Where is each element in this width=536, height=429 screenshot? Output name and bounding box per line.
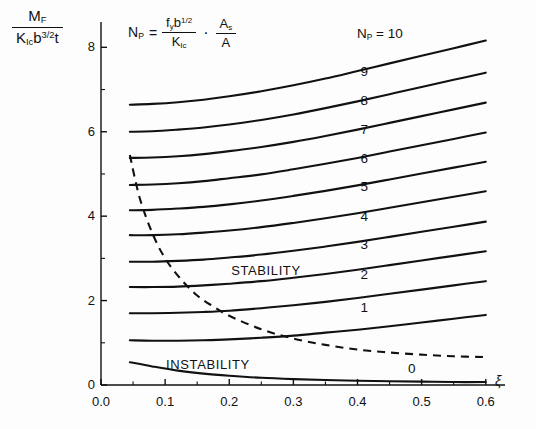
x-tick-label-4: 0.4 [341, 395, 375, 408]
curve-label-np-5: 5 [360, 180, 368, 194]
curve-label-np-2: 2 [360, 268, 368, 282]
axis-ticks [101, 47, 486, 385]
y-axis-title: MF KIcb3/2t [12, 8, 63, 47]
curve-label-np-4: 4 [360, 210, 368, 224]
region-label-instability: INSTABILITY [166, 358, 250, 371]
curve-label-np-6: 6 [360, 152, 368, 166]
data-curves [130, 41, 486, 383]
formula-f1-numerator: fyb1/2 [162, 16, 196, 33]
formula-lhs: NP [128, 25, 144, 41]
curve-np-1 [130, 315, 486, 341]
np-label-value: = 10 [372, 26, 402, 41]
curve-np-4 [130, 222, 486, 262]
curve-np-7 [130, 133, 486, 185]
x-tick-label-2: 0.2 [212, 395, 246, 408]
axes [101, 22, 505, 385]
y-axis-denominator: KIcb3/2t [12, 28, 63, 48]
curve-label-np-7: 7 [360, 123, 368, 137]
region-label-stability: STABILITY [231, 264, 300, 277]
y-tick-label-4: 8 [79, 40, 95, 53]
formula-f2-numerator: As [216, 17, 237, 34]
x-tick-label-6: 0.6 [469, 395, 503, 408]
y-axis-numerator: MF [12, 8, 63, 28]
x-tick-label-1: 0.1 [148, 395, 182, 408]
curve-label-np-8: 8 [360, 94, 368, 108]
formula-f2-denominator: A [216, 34, 237, 49]
stability-boundary-curve [130, 155, 486, 357]
formula-fraction-2: As A [216, 17, 237, 49]
curve-label-np-1: 1 [360, 301, 368, 315]
y-axis-title-fraction: MF KIcb3/2t [12, 8, 63, 47]
curve-np-6 [130, 162, 486, 211]
np-definition-formula: NP = fyb1/2 KIc · As A [128, 16, 236, 50]
curve-stability-boundary [130, 155, 486, 357]
formula-multiply-dot: · [201, 25, 210, 41]
curve-np-10 [130, 41, 486, 105]
formula-equals: = [149, 26, 157, 40]
x-tick-label-5: 0.5 [405, 395, 439, 408]
curve-np-3 [130, 251, 486, 287]
curve-label-np-9: 9 [360, 65, 368, 79]
curve-label-np-3: 3 [360, 238, 368, 252]
x-tick-label-0: 0.0 [84, 395, 118, 408]
y-tick-label-3: 6 [79, 125, 95, 138]
curve-label-np-0: 0 [408, 362, 416, 376]
curve-np-5 [130, 191, 486, 235]
formula-f1-denominator: KIc [162, 33, 196, 50]
formula-fraction-1: fyb1/2 KIc [162, 16, 196, 50]
figure-panel: MF KIcb3/2t NP = fyb1/2 KIc · As A ξ 0.0… [0, 0, 536, 429]
curve-label-np-10: NP = 10 [357, 27, 403, 41]
y-tick-label-2: 4 [79, 209, 95, 222]
y-tick-label-0: 0 [79, 378, 95, 391]
np-label-base: N [357, 26, 367, 41]
x-axis-title: ξ [495, 374, 501, 388]
y-tick-label-1: 2 [79, 294, 95, 307]
x-tick-label-3: 0.3 [276, 395, 310, 408]
